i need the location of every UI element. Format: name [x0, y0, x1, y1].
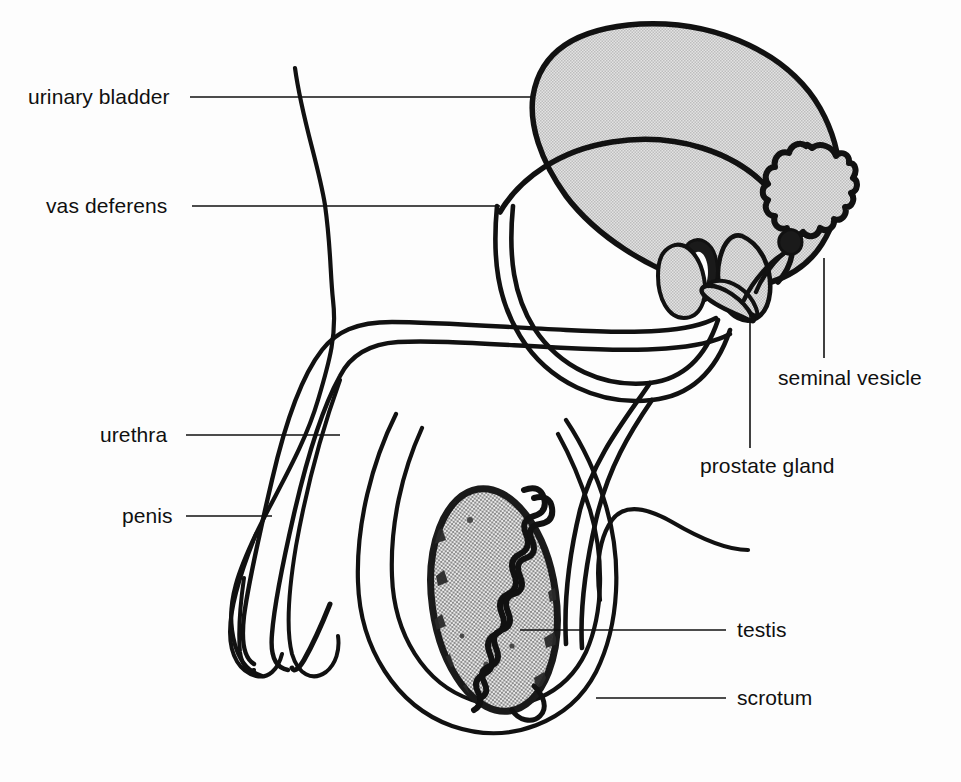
seminal-vesicle-shape [763, 144, 857, 236]
thigh-contour [598, 509, 748, 600]
label-penis: penis [122, 505, 173, 526]
label-vas-deferens: vas deferens [46, 195, 167, 216]
anatomy-illustration [0, 0, 961, 782]
anatomy-diagram: urinary bladder vas deferens urethra pen… [0, 0, 961, 782]
label-seminal-vesicle: seminal vesicle [778, 367, 922, 388]
penis-glans-inner-line [292, 604, 330, 670]
label-testis: testis [737, 619, 787, 640]
label-scrotum: scrotum [737, 687, 812, 708]
seminal-vesicle-base-lobule [779, 230, 802, 255]
label-urethra: urethra [100, 424, 167, 445]
label-prostate-gland: prostate gland [700, 455, 835, 476]
body-wall-outline [231, 68, 334, 676]
penis-glans-right [289, 380, 340, 676]
label-urinary-bladder: urinary bladder [28, 86, 170, 107]
